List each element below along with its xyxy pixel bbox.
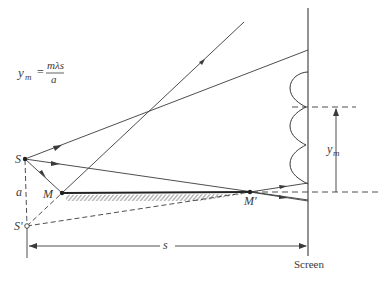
label-m: M (42, 187, 54, 201)
ray-s-upper (25, 50, 308, 159)
mirror-surface (62, 192, 250, 193)
arrowhead (333, 108, 339, 116)
formula-numerator: mλs (47, 59, 64, 71)
arrowhead (299, 243, 307, 249)
formula-equals: = (37, 65, 44, 79)
label-screen: Screen (294, 258, 324, 270)
arrowhead (29, 243, 37, 249)
lloyds-mirror-diagram: y m = mλs a S a M S′ M′ s y m Screen (0, 0, 380, 287)
arrowhead (39, 170, 46, 178)
ray-mprime-upper (250, 183, 308, 192)
arrowhead (279, 185, 287, 189)
arrowhead (199, 59, 205, 65)
point-s (23, 157, 27, 161)
fringe-pattern (290, 72, 308, 184)
ray-m-reflected (62, 22, 244, 193)
mirror-hatching (66, 194, 245, 201)
label-a: a (16, 185, 22, 199)
label-s-distance: s (163, 238, 168, 252)
arrowhead (53, 145, 62, 151)
label-ym: y (326, 142, 333, 156)
point-m (60, 191, 64, 195)
label-mprime: M′ (243, 194, 257, 208)
label-ym-sub: m (333, 148, 340, 158)
label-s: S (15, 152, 21, 166)
formula-lhs-sub: m (25, 72, 32, 82)
label-sprime: S′ (14, 219, 23, 233)
formula-lhs: y (16, 65, 24, 80)
point-sprime (25, 224, 30, 229)
dashed-s-to-sprime (25, 160, 27, 226)
formula-denominator: a (51, 73, 57, 85)
